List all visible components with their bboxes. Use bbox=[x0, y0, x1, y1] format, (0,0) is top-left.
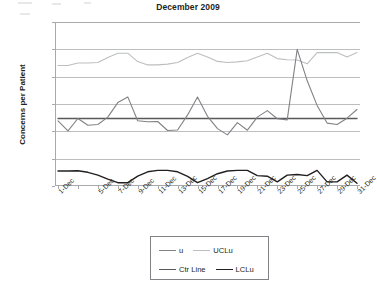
y-tick-mark bbox=[52, 186, 55, 187]
legend-item-uclu[interactable]: UCLu bbox=[193, 246, 232, 255]
legend-item-ctr-line[interactable]: Ctr Line bbox=[159, 265, 206, 274]
y-axis-title: Concerns per Patient bbox=[18, 25, 27, 185]
legend-label: Ctr Line bbox=[179, 265, 206, 274]
legend: uUCLuCtr LineLCLu bbox=[150, 236, 269, 280]
series-line-uclu bbox=[58, 53, 357, 66]
legend-item-lclu[interactable]: LCLu bbox=[216, 265, 254, 274]
scan-artifact bbox=[20, 13, 30, 15]
series-line-u bbox=[58, 49, 357, 135]
legend-label: LCLu bbox=[236, 265, 254, 274]
chart-title: December 2009 bbox=[0, 2, 376, 12]
legend-label: u bbox=[179, 246, 183, 255]
legend-swatch-icon bbox=[193, 250, 210, 251]
legend-label: UCLu bbox=[213, 246, 232, 255]
legend-swatch-icon bbox=[159, 250, 176, 251]
x-tick-mark bbox=[78, 186, 79, 189]
series-lines bbox=[55, 22, 360, 186]
legend-swatch-icon bbox=[159, 269, 176, 270]
series-line-lclu bbox=[58, 170, 357, 183]
plot-area: 0.001.002.003.004.005.006.00 1-Dec5-Dec7… bbox=[55, 22, 360, 186]
legend-item-u[interactable]: u bbox=[159, 246, 183, 255]
legend-swatch-icon bbox=[216, 269, 233, 270]
legend-row: uUCLu bbox=[151, 241, 270, 259]
legend-row: Ctr LineLCLu bbox=[151, 260, 270, 278]
